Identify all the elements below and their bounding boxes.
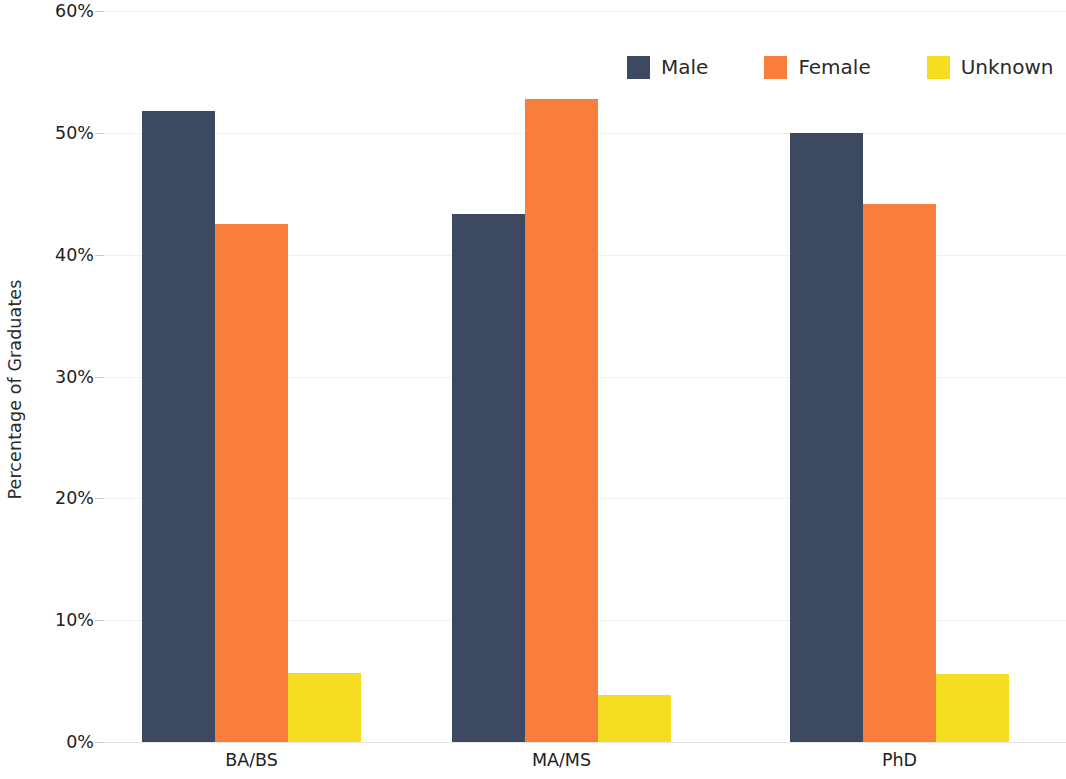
- y-axis-tick-label: 50%: [14, 123, 94, 143]
- bar-unknown-ba-bs: [288, 673, 361, 742]
- legend-item-female[interactable]: Female: [764, 55, 870, 79]
- bar-male-ma-ms: [452, 214, 525, 742]
- y-axis-tick-label: 30%: [14, 367, 94, 387]
- y-axis-tick-label: 20%: [14, 488, 94, 508]
- y-axis-tick-mark: [95, 133, 104, 134]
- x-axis-tick-label: BA/BS: [162, 750, 342, 770]
- y-axis-tick-mark: [95, 377, 104, 378]
- bar-female-ma-ms: [525, 99, 598, 742]
- legend-item-label: Unknown: [961, 55, 1054, 79]
- gridline: [104, 11, 1066, 12]
- bar-chart: Percentage of Graduates 0%10%20%30%40%50…: [0, 0, 1066, 779]
- y-axis-tick-labels: 0%10%20%30%40%50%60%: [0, 11, 94, 742]
- bar-male-ba-bs: [142, 111, 215, 742]
- y-axis-tick-label: 10%: [14, 610, 94, 630]
- y-axis-tick-label: 60%: [14, 1, 94, 21]
- bar-unknown-phd: [936, 674, 1009, 742]
- square-swatch-icon: [627, 56, 650, 79]
- y-axis-tick-label: 40%: [14, 245, 94, 265]
- y-axis-tick-mark: [95, 742, 104, 743]
- legend-item-label: Female: [798, 55, 870, 79]
- legend-item-label: Male: [661, 55, 708, 79]
- bar-unknown-ma-ms: [598, 695, 671, 743]
- bar-female-phd: [863, 204, 936, 743]
- square-swatch-icon: [927, 56, 950, 79]
- x-axis-tick-label: PhD: [810, 750, 990, 770]
- square-swatch-icon: [764, 56, 787, 79]
- bar-female-ba-bs: [215, 224, 288, 742]
- y-axis-tick-mark: [95, 620, 104, 621]
- y-axis-tick-mark: [95, 255, 104, 256]
- y-axis-tick-mark: [95, 498, 104, 499]
- x-axis-tick-label: MA/MS: [472, 750, 652, 770]
- legend-item-unknown[interactable]: Unknown: [927, 55, 1054, 79]
- chart-legend: MaleFemaleUnknown: [627, 55, 1054, 79]
- bar-male-phd: [790, 133, 863, 742]
- plot-area: [104, 11, 1066, 742]
- legend-item-male[interactable]: Male: [627, 55, 708, 79]
- x-axis-line: [104, 742, 1066, 743]
- y-axis-tick-mark: [95, 11, 104, 12]
- y-axis-tick-label: 0%: [14, 732, 94, 752]
